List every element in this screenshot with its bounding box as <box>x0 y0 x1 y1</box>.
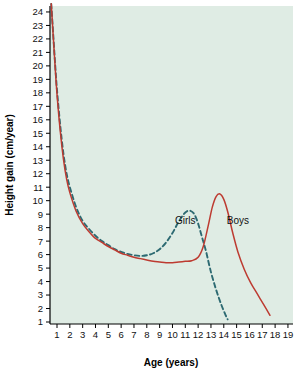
x-tick-label: 13 <box>206 329 217 340</box>
y-tick-label: 24 <box>32 6 43 17</box>
y-tick-label: 17 <box>32 101 43 112</box>
series-label-boys: Boys <box>227 215 249 226</box>
y-tick-label: 9 <box>38 209 43 220</box>
y-tick-label: 4 <box>38 276 43 287</box>
x-tick-label: 14 <box>219 329 230 340</box>
x-tick-label: 11 <box>180 329 190 340</box>
y-tick-label: 16 <box>32 114 43 125</box>
x-tick-label: 16 <box>244 329 255 340</box>
x-tick-label: 5 <box>106 329 111 340</box>
y-tick-label: 15 <box>32 128 43 139</box>
y-tick-label: 12 <box>32 168 43 179</box>
x-tick-label: 3 <box>80 329 85 340</box>
y-tick-label: 14 <box>32 141 43 152</box>
y-tick-label: 11 <box>33 182 43 193</box>
x-axis-ticks: 12345678910111213141516171819 <box>54 324 293 340</box>
y-tick-label: 22 <box>32 33 43 44</box>
x-tick-label: 12 <box>193 329 204 340</box>
y-tick-label: 8 <box>38 222 43 233</box>
growth-velocity-chart: 123456789101112131415161718192021222324 … <box>0 0 303 375</box>
y-tick-label: 21 <box>32 47 43 58</box>
x-tick-label: 8 <box>144 329 149 340</box>
x-tick-label: 7 <box>131 329 136 340</box>
x-tick-label: 9 <box>157 329 162 340</box>
plot-background <box>50 6 293 324</box>
y-tick-label: 3 <box>38 289 43 300</box>
y-tick-label: 7 <box>38 236 43 247</box>
y-tick-label: 1 <box>38 316 43 327</box>
x-tick-label: 17 <box>257 329 268 340</box>
y-tick-label: 2 <box>38 303 43 314</box>
x-tick-label: 4 <box>93 329 98 340</box>
y-tick-label: 23 <box>32 20 43 31</box>
x-axis-title: Age (years) <box>144 357 198 368</box>
y-axis-title: Height gain (cm/year) <box>4 114 15 216</box>
x-tick-label: 18 <box>270 329 281 340</box>
y-tick-label: 18 <box>32 87 43 98</box>
x-tick-label: 1 <box>54 329 59 340</box>
y-tick-label: 13 <box>32 155 43 166</box>
y-tick-label: 10 <box>32 195 43 206</box>
x-tick-label: 15 <box>231 329 242 340</box>
x-tick-label: 19 <box>283 329 294 340</box>
x-tick-label: 10 <box>167 329 178 340</box>
y-axis-ticks: 123456789101112131415161718192021222324 <box>32 6 50 327</box>
y-tick-label: 5 <box>38 262 43 273</box>
y-tick-label: 6 <box>38 249 43 260</box>
y-tick-label: 19 <box>32 74 43 85</box>
chart-canvas: 123456789101112131415161718192021222324 … <box>0 0 303 375</box>
x-tick-label: 2 <box>67 329 72 340</box>
y-tick-label: 20 <box>32 60 43 71</box>
x-tick-label: 6 <box>119 329 124 340</box>
series-label-girls: Girls <box>175 215 196 226</box>
